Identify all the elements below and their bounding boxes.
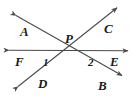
angle-label-1: 1: [43, 57, 49, 68]
angle-label-2: 2: [88, 57, 94, 68]
line-segment-FE: [9, 50, 128, 51]
point-label-p: P: [65, 32, 73, 45]
intersecting-lines-svg: [0, 0, 137, 100]
point-label-f: F: [15, 55, 24, 68]
point-label-e: E: [110, 55, 119, 68]
point-label-c: C: [104, 22, 113, 35]
line-group: [9, 8, 128, 87]
point-label-d: D: [38, 77, 47, 90]
geometry-diagram: A C P F E D B 1 2: [0, 0, 137, 100]
line-segment-DC: [18, 8, 117, 87]
point-label-b: B: [98, 79, 107, 92]
point-label-a: A: [20, 25, 29, 38]
